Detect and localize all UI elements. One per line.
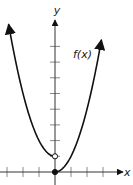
closed-endpoint xyxy=(52,169,57,174)
open-endpoint xyxy=(52,154,57,159)
x-axis-label: x xyxy=(123,166,131,179)
left-curve xyxy=(9,24,55,156)
piecewise-function-chart: x y f(x) xyxy=(0,0,133,185)
y-axis-label: y xyxy=(53,4,61,17)
function-label: f(x) xyxy=(73,48,92,61)
